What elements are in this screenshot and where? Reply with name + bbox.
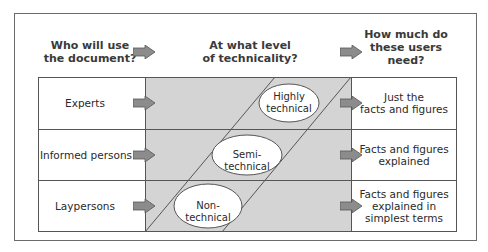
technicality-non-technical: Non-technical: [174, 200, 242, 224]
audience-laypersons: Laypersons: [40, 200, 130, 212]
technicality-semi-technical: Semi-technical: [212, 149, 282, 173]
technicality-highly-technical: Highly technical: [259, 91, 319, 115]
arrow-right-icon: [133, 45, 155, 59]
need-experts: Just the facts and figures: [352, 91, 456, 115]
need-laypersons: Facts and figures explained in simplest …: [352, 188, 456, 224]
arrow-right-icon: [133, 148, 155, 162]
arrow-right-icon: [133, 96, 155, 110]
audience-informed-persons: Informed persons: [38, 149, 134, 161]
audience-experts: Experts: [40, 97, 130, 109]
need-informed-persons: Facts and figures explained: [352, 143, 456, 167]
arrow-right-icon: [340, 45, 362, 59]
arrow-right-icon: [133, 199, 155, 213]
